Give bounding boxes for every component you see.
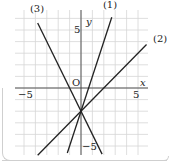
y-tick-pos5: 5: [74, 24, 80, 35]
coordinate-graph: (1) (2) (3) y x O −5 5 5 −5: [0, 0, 170, 166]
line-2-label: (2): [153, 33, 167, 44]
origin-label: O: [72, 77, 80, 88]
x-tick-pos5: 5: [133, 89, 139, 100]
axes: [15, 10, 148, 155]
y-axis-label: y: [85, 16, 92, 27]
x-axis-label: x: [140, 77, 146, 88]
line-1-label: (1): [103, 0, 117, 10]
grid: [15, 10, 148, 155]
line-3-label: (3): [30, 3, 44, 14]
x-tick-neg5: −5: [18, 89, 33, 100]
y-tick-neg5: −5: [82, 141, 97, 152]
